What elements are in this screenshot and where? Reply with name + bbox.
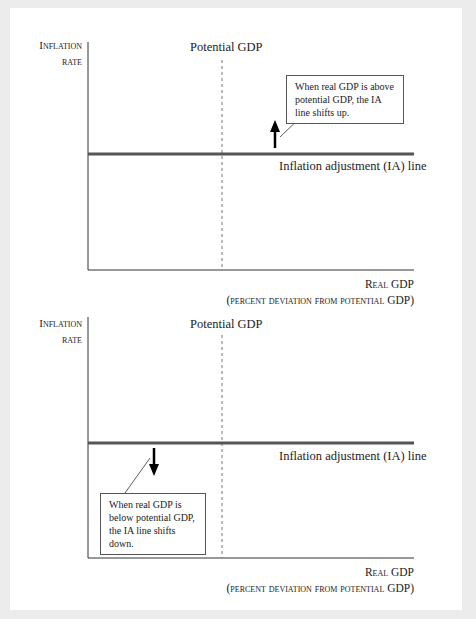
potential-gdp-label-top: Potential GDP <box>190 40 263 55</box>
note-leader-bottom <box>125 458 150 493</box>
down-arrow-icon <box>149 464 159 476</box>
diagram-graphics <box>0 0 476 619</box>
note-box-top: When real GDP is above potential GDP, th… <box>286 75 404 124</box>
potential-gdp-label-bottom: Potential GDP <box>190 317 263 332</box>
x-axis-label-bottom: Real GDP (percent deviation from potenti… <box>227 564 415 596</box>
ia-line-label-top: Inflation adjustment (IA) line <box>279 159 427 174</box>
y-axis-label-bottom: Inflation rate <box>12 315 82 347</box>
up-arrow-icon <box>270 120 280 132</box>
x-axis-label-top: Real GDP (percent deviation from potenti… <box>227 276 415 308</box>
y-axis-label-top: Inflation rate <box>12 37 82 69</box>
note-box-bottom: When real GDP is below potential GDP, th… <box>100 493 206 555</box>
ia-line-label-bottom: Inflation adjustment (IA) line <box>279 449 427 464</box>
